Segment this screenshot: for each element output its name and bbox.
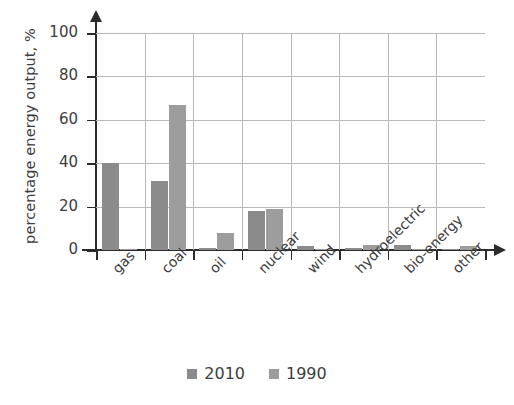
y-axis-tick-label: 100	[44, 23, 78, 41]
gridline-vertical	[339, 33, 340, 250]
plot-area	[96, 33, 492, 250]
bar-nuclear-2010	[248, 211, 265, 250]
bar-other-2010	[442, 249, 459, 250]
y-axis-tick	[87, 120, 96, 122]
bar-chart: percentage energy output, % 020406080100…	[0, 0, 514, 405]
bar-coal-2010	[151, 181, 168, 250]
legend-label: 1990	[286, 364, 327, 383]
legend-item-1990[interactable]: 1990	[269, 364, 327, 383]
y-axis-tick-label: 80	[44, 66, 78, 84]
bar-bio-energy-2010	[394, 245, 411, 250]
bar-hydroelectric-2010	[345, 248, 362, 250]
legend-swatch-icon	[269, 369, 279, 379]
y-axis-tick	[87, 33, 96, 35]
x-axis-tick	[436, 251, 438, 260]
y-axis-tick-label: 0	[44, 240, 78, 258]
gridline-vertical	[436, 33, 437, 250]
gridline-vertical	[193, 33, 194, 250]
y-axis-tick	[87, 207, 96, 209]
y-axis-tick	[87, 76, 96, 78]
x-axis-tick	[193, 251, 195, 260]
y-axis-title: percentage energy output, %	[22, 11, 38, 261]
legend-swatch-icon	[187, 369, 197, 379]
x-axis-tick	[388, 251, 390, 260]
bar-oil-2010	[199, 248, 216, 250]
y-axis-tick	[87, 163, 96, 165]
y-axis-tick	[87, 250, 96, 252]
legend-item-2010[interactable]: 2010	[187, 364, 245, 383]
bar-coal-1990	[169, 105, 186, 250]
x-axis-tick	[485, 251, 487, 260]
gridline-vertical	[242, 33, 243, 250]
bar-oil-1990	[217, 233, 234, 250]
gridline-vertical	[291, 33, 292, 250]
bar-wind-2010	[297, 246, 314, 250]
x-axis-label-oil: oil	[206, 253, 229, 276]
legend-label: 2010	[204, 364, 245, 383]
x-axis-tick	[339, 251, 341, 260]
legend: 20101990	[0, 364, 514, 383]
y-axis-tick-label: 60	[44, 110, 78, 128]
x-axis-tick	[145, 251, 147, 260]
x-axis-tick	[242, 251, 244, 260]
gridline-vertical	[145, 33, 146, 250]
x-axis-tick	[96, 251, 98, 260]
x-axis-arrow-icon	[494, 244, 506, 256]
y-axis-tick-label: 20	[44, 197, 78, 215]
y-axis-tick-label: 40	[44, 153, 78, 171]
gridline-vertical	[388, 33, 389, 250]
x-axis-tick	[291, 251, 293, 260]
x-axis-label-gas: gas	[109, 247, 138, 276]
y-axis-arrow-icon	[90, 10, 102, 22]
bar-gas-2010	[102, 163, 119, 250]
